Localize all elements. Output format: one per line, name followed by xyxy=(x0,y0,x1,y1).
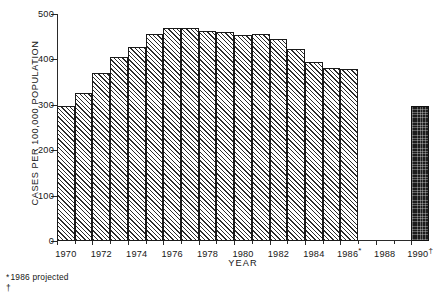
x-minor-tick-mark xyxy=(110,241,111,244)
x-tick-mark xyxy=(163,241,164,245)
x-tick-label-marker: † xyxy=(428,246,433,255)
y-tick-label: 400 xyxy=(38,54,54,64)
x-minor-tick-mark xyxy=(287,241,288,244)
footnote: *1986 projected xyxy=(6,272,306,283)
bar xyxy=(270,39,288,241)
x-tick-mark xyxy=(234,241,235,245)
footnote-marker: † xyxy=(6,283,11,293)
y-tick-label: 500 xyxy=(38,9,54,19)
plot-area: 0100200300400500 19701972197419761978198… xyxy=(57,14,429,241)
footnote-marker: * xyxy=(6,272,9,282)
bar xyxy=(146,34,164,241)
x-minor-tick-mark xyxy=(252,241,253,244)
bar xyxy=(181,28,199,241)
x-minor-tick-mark xyxy=(75,241,76,244)
x-tick-mark xyxy=(411,241,412,245)
x-minor-tick-mark xyxy=(216,241,217,244)
bar xyxy=(163,28,181,241)
bar xyxy=(216,32,234,241)
x-minor-tick-mark xyxy=(181,241,182,244)
bar xyxy=(340,69,358,241)
bar xyxy=(128,47,146,241)
bar xyxy=(92,73,110,241)
y-tick-label: 0 xyxy=(49,236,54,246)
x-tick-mark xyxy=(340,241,341,245)
bar xyxy=(75,93,93,241)
x-minor-tick-mark xyxy=(146,241,147,244)
footnote-text: 1986 projected xyxy=(10,272,68,282)
x-minor-tick-mark xyxy=(394,241,395,244)
bar xyxy=(252,34,270,241)
footnotes-group: *1986 projected† xyxy=(6,272,306,294)
bar xyxy=(411,106,429,241)
bar xyxy=(110,57,128,241)
x-minor-tick-mark xyxy=(323,241,324,244)
x-axis-title: YEAR xyxy=(57,258,429,268)
x-tick-mark xyxy=(270,241,271,245)
footnote: † xyxy=(6,283,306,294)
x-tick-mark xyxy=(199,241,200,245)
x-tick-mark xyxy=(376,241,377,245)
bar-chart-figure: CASES PER 100,000 POPULATION 01002003004… xyxy=(0,0,448,295)
bar xyxy=(305,62,323,241)
bar xyxy=(234,35,252,241)
bar xyxy=(287,49,305,241)
y-tick-label: 200 xyxy=(38,145,54,155)
bar xyxy=(323,68,341,241)
y-tick-label: 300 xyxy=(38,100,54,110)
y-tick-label: 100 xyxy=(38,191,54,201)
x-tick-mark xyxy=(92,241,93,245)
x-tick-label-marker: * xyxy=(358,246,361,255)
bar xyxy=(57,106,75,241)
x-minor-tick-mark xyxy=(358,241,359,244)
x-tick-mark xyxy=(57,241,58,245)
y-axis-title: CASES PER 100,000 POPULATION xyxy=(30,8,40,238)
bar xyxy=(199,31,217,241)
x-tick-mark xyxy=(128,241,129,245)
x-tick-mark xyxy=(305,241,306,245)
